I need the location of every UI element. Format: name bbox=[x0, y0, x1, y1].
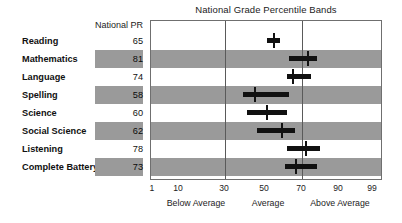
percentile-band-row bbox=[151, 68, 381, 86]
national-pr-value: 81 bbox=[95, 50, 143, 68]
subject-label: Science bbox=[22, 104, 57, 122]
subject-label: Complete Battery bbox=[22, 158, 98, 176]
percentile-band-row bbox=[151, 32, 381, 50]
percentile-band-bar bbox=[243, 92, 289, 97]
percentile-marker-tick bbox=[307, 51, 309, 66]
percentile-marker-tick bbox=[273, 33, 275, 48]
percentile-band-bar bbox=[257, 128, 295, 133]
subject-label: Reading bbox=[22, 32, 58, 50]
subject-label: Listening bbox=[22, 140, 63, 158]
national-pr-column-header: National PR bbox=[0, 20, 143, 30]
national-pr-value: 78 bbox=[95, 140, 143, 158]
percentile-marker-tick bbox=[292, 69, 294, 84]
x-category-label: Below Average bbox=[167, 198, 226, 208]
percentile-band-row bbox=[151, 122, 381, 140]
national-pr-value: 73 bbox=[95, 158, 143, 176]
subject-label: Language bbox=[22, 68, 65, 86]
table-row: Science60 bbox=[0, 104, 150, 122]
national-pr-value: 65 bbox=[95, 32, 143, 50]
x-tick-label: 99 bbox=[367, 183, 377, 193]
table-row: Listening78 bbox=[0, 140, 150, 158]
table-row: Reading65 bbox=[0, 32, 150, 50]
page-title: National Grade Percentile Bands bbox=[150, 4, 382, 15]
table-row: Mathematics81 bbox=[0, 50, 150, 68]
subject-label: Spelling bbox=[22, 86, 58, 104]
x-tick-label: 10 bbox=[173, 183, 183, 193]
x-category-label: Average bbox=[252, 198, 285, 208]
percentile-band-row bbox=[151, 86, 381, 104]
x-tick-label: 1 bbox=[150, 183, 155, 193]
percentile-marker-tick bbox=[266, 105, 268, 120]
x-tick-label: 30 bbox=[219, 183, 229, 193]
percentile-band-row bbox=[151, 104, 381, 122]
x-tick-label: 90 bbox=[333, 183, 343, 193]
national-pr-value: 74 bbox=[95, 68, 143, 86]
percentile-marker-tick bbox=[281, 123, 283, 138]
national-pr-value: 60 bbox=[95, 104, 143, 122]
national-pr-value: 62 bbox=[95, 122, 143, 140]
percentile-marker-tick bbox=[295, 159, 297, 174]
x-axis-tick-labels: 1103050709099 bbox=[150, 183, 382, 195]
percentile-band-row bbox=[151, 50, 381, 68]
percentile-band-row bbox=[151, 140, 381, 158]
table-row: Spelling58 bbox=[0, 86, 150, 104]
national-pr-value: 58 bbox=[95, 86, 143, 104]
percentile-marker-tick bbox=[254, 87, 256, 102]
percentile-bands-chart: National Grade Percentile Bands National… bbox=[0, 0, 402, 223]
percentile-band-row bbox=[151, 158, 381, 176]
table-row: Complete Battery73 bbox=[0, 158, 150, 176]
subject-label: Mathematics bbox=[22, 50, 78, 68]
plot-area bbox=[150, 20, 382, 180]
x-tick-label: 70 bbox=[296, 183, 306, 193]
x-axis-category-labels: Below AverageAverageAbove Average bbox=[145, 198, 390, 212]
percentile-band-bar bbox=[289, 56, 317, 61]
x-tick-label: 50 bbox=[259, 183, 269, 193]
table-row: Social Science62 bbox=[0, 122, 150, 140]
percentile-marker-tick bbox=[305, 141, 307, 156]
x-category-label: Above Average bbox=[310, 198, 370, 208]
table-row: Language74 bbox=[0, 68, 150, 86]
subject-label-column: Reading65Mathematics81Language74Spelling… bbox=[0, 32, 150, 176]
percentile-band-bar bbox=[285, 164, 316, 169]
subject-label: Social Science bbox=[22, 122, 86, 140]
